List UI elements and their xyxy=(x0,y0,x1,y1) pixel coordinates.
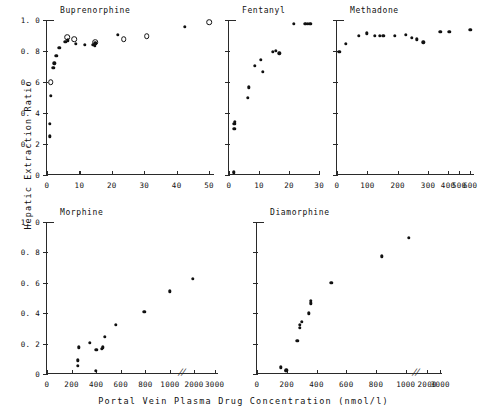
y-axis-tick xyxy=(43,144,48,145)
x-axis-tick xyxy=(317,370,318,375)
y-axis-tick xyxy=(253,374,258,375)
y-axis-tick xyxy=(225,144,230,145)
x-axis-tick xyxy=(209,171,210,176)
x-axis-tick xyxy=(144,171,145,176)
data-point xyxy=(309,299,312,302)
x-axis-tick-label: 0 xyxy=(227,181,232,190)
y-axis-tick xyxy=(43,252,48,253)
x-axis-tick xyxy=(121,370,122,375)
y-axis-tick xyxy=(333,20,338,21)
data-point xyxy=(88,341,91,344)
x-axis-tick xyxy=(47,171,48,176)
data-point xyxy=(330,281,333,284)
x-axis-tick xyxy=(406,370,407,375)
x-axis-tick-label: 0 xyxy=(45,181,50,190)
panel-title: Methadone xyxy=(350,6,399,15)
y-axis-tick xyxy=(253,252,258,253)
plot-area: 0102030 xyxy=(228,20,320,175)
x-axis-tick-label: 1000 xyxy=(396,380,415,389)
data-point xyxy=(121,37,127,43)
y-axis-tick xyxy=(225,113,230,114)
figure-panel-grid: Hepatic Extraction Ratio Portal Vein Pla… xyxy=(0,0,487,416)
y-axis-tick xyxy=(43,374,48,375)
x-axis-tick-label: 10 xyxy=(254,181,264,190)
panel-title: Diamorphine xyxy=(270,208,330,217)
data-point xyxy=(94,348,97,351)
data-point xyxy=(144,33,150,39)
x-axis-tick-label: 0 xyxy=(255,380,260,389)
x-axis-line xyxy=(47,174,214,175)
panel-methadone: Methadone 0100200300400500600 xyxy=(336,20,474,175)
x-axis-tick-label: 600 xyxy=(463,181,477,190)
data-point xyxy=(76,364,79,367)
data-point xyxy=(103,335,106,338)
x-axis-tick-label: 20 xyxy=(107,181,117,190)
plot-area: 0200400600800100020003000// xyxy=(256,222,442,374)
x-axis-tick-label: 0 xyxy=(45,380,50,389)
panel-fentanyl: Fentanyl 0102030 xyxy=(228,20,320,175)
y-axis-tick xyxy=(225,82,230,83)
data-point xyxy=(279,365,282,368)
y-axis-tick xyxy=(225,175,230,176)
x-axis-tick xyxy=(376,370,377,375)
x-axis-tick-label: 400 xyxy=(89,380,103,389)
frame-cap xyxy=(257,222,264,223)
data-point xyxy=(468,28,471,31)
panel-diamorphine: Diamorphine 0200400600800100020003000// xyxy=(256,222,442,374)
x-axis-tick-label: 600 xyxy=(114,380,128,389)
y-axis-tick xyxy=(333,144,338,145)
x-axis-tick-label: 200 xyxy=(390,181,404,190)
data-point xyxy=(307,311,310,314)
frame-cap xyxy=(47,20,54,21)
x-axis-tick-label: 200 xyxy=(280,380,294,389)
data-point xyxy=(64,34,70,40)
x-axis-tick-label: 30 xyxy=(139,181,149,190)
data-point xyxy=(83,43,86,46)
y-axis-tick-label: 0. 8 xyxy=(21,248,40,257)
plot-area: 0100200300400500600 xyxy=(336,20,474,175)
y-axis-tick xyxy=(43,344,48,345)
y-axis-tick-label: 1. 0 xyxy=(21,218,40,227)
x-axis-tick xyxy=(112,171,113,176)
data-point xyxy=(410,36,413,39)
data-point xyxy=(206,20,212,26)
x-axis-tick-label: 0 xyxy=(335,181,340,190)
data-point xyxy=(278,52,281,55)
data-point xyxy=(292,22,295,25)
x-axis-tick xyxy=(427,370,428,375)
x-axis-tick xyxy=(346,370,347,375)
x-axis-tick-label: 800 xyxy=(138,380,152,389)
x-axis-line xyxy=(229,174,320,175)
data-point xyxy=(52,66,55,69)
y-axis-tick-label: 0. 2 xyxy=(21,339,40,348)
x-axis-tick-label: 200 xyxy=(64,380,78,389)
data-point xyxy=(309,22,312,25)
panel-buprenorphine: Buprenorphine 00. 20. 40. 60. 81. 001020… xyxy=(46,20,214,175)
y-axis-tick-label: 0 xyxy=(35,171,40,180)
x-axis-tick-label: 1000 xyxy=(160,380,179,389)
data-point xyxy=(373,34,376,37)
x-axis-tick-label: 2000 xyxy=(184,380,203,389)
data-point xyxy=(233,127,236,130)
data-point xyxy=(393,34,396,37)
x-axis-tick xyxy=(170,370,171,375)
y-axis-tick-label: 0. 6 xyxy=(21,278,40,287)
x-axis-tick xyxy=(428,171,429,176)
x-axis-tick-label: 3000 xyxy=(431,380,450,389)
frame-cap xyxy=(47,222,54,223)
y-axis-tick xyxy=(43,51,48,52)
x-axis-tick xyxy=(79,171,80,176)
x-axis-tick xyxy=(398,171,399,176)
plot-area: 00. 20. 40. 60. 81. 001020304050 xyxy=(46,20,214,175)
data-point xyxy=(247,86,250,89)
x-axis-tick-label: 400 xyxy=(309,380,323,389)
y-axis-tick-label: 0. 4 xyxy=(21,309,40,318)
y-axis-tick-label: 0. 4 xyxy=(21,109,40,118)
y-axis-tick xyxy=(253,283,258,284)
data-point xyxy=(261,70,264,73)
data-point xyxy=(76,359,79,362)
y-axis-tick-label: 0. 6 xyxy=(21,78,40,87)
x-axis-tick xyxy=(289,171,290,176)
data-point xyxy=(407,236,410,239)
y-axis-tick xyxy=(253,222,258,223)
